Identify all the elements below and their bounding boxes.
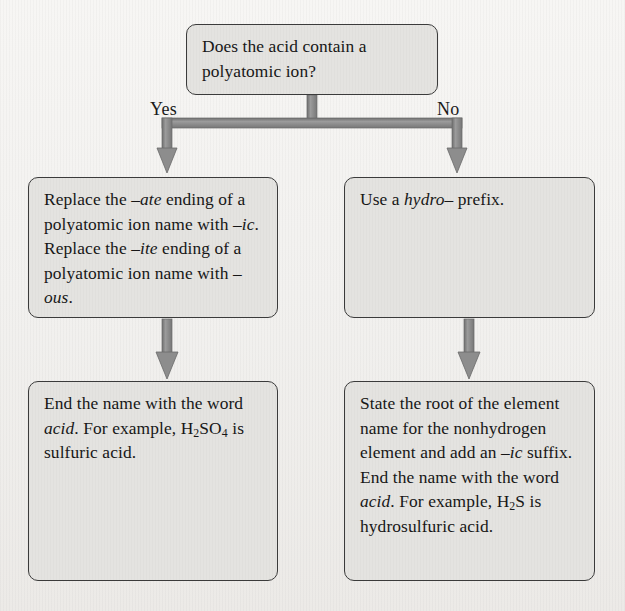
text-seg: . bbox=[68, 287, 72, 307]
prefix-hydro: hydro– bbox=[404, 189, 453, 209]
text-seg: . For example, H bbox=[390, 491, 509, 511]
text-seg: . For example, H bbox=[74, 418, 193, 438]
suffix-ic: –ic bbox=[501, 442, 523, 462]
text-seg: SO bbox=[199, 418, 221, 438]
split-connector bbox=[157, 95, 467, 173]
left-vertical-connector bbox=[156, 319, 178, 379]
suffix-ate: –ate bbox=[131, 189, 161, 209]
node-replace-polyatomic-ending: Replace the –ate ending of a polyatomic … bbox=[28, 177, 278, 318]
node-polyatomic-text: Replace the –ate ending of a polyatomic … bbox=[44, 187, 264, 310]
branch-label-no: No bbox=[437, 99, 460, 120]
suffix-ite: –ite bbox=[131, 238, 157, 258]
text-seg: prefix. bbox=[453, 189, 504, 209]
node-acid-suffix-text: End the name with the word acid. For exa… bbox=[44, 391, 264, 465]
flowchart-canvas: Yes No Does the acid contain apolyatomic… bbox=[0, 0, 625, 611]
node-hydro-acid-text: State the root of the element name for t… bbox=[360, 391, 581, 538]
node-use-hydro-prefix: Use a hydro– prefix. bbox=[344, 177, 595, 318]
right-vertical-connector bbox=[458, 319, 480, 379]
question-line-2: polyatomic ion? bbox=[202, 61, 316, 81]
node-state-root-of-element-name: State the root of the element name for t… bbox=[344, 381, 595, 581]
node-question: Does the acid contain apolyatomic ion? bbox=[186, 24, 438, 95]
text-seg: Use a bbox=[360, 189, 404, 209]
word-acid: acid bbox=[360, 491, 390, 511]
text-seg: End the name with the word bbox=[44, 393, 243, 413]
word-acid: acid bbox=[44, 418, 74, 438]
node-hydro-text: Use a hydro– prefix. bbox=[360, 187, 581, 212]
node-question-text: Does the acid contain apolyatomic ion? bbox=[202, 34, 424, 83]
suffix-ic: –ic bbox=[233, 214, 255, 234]
node-end-name-with-acid: End the name with the word acid. For exa… bbox=[28, 381, 278, 581]
branch-label-yes: Yes bbox=[150, 99, 177, 120]
question-line-1: Does the acid contain a bbox=[202, 36, 367, 56]
text-seg: Replace the bbox=[44, 189, 131, 209]
